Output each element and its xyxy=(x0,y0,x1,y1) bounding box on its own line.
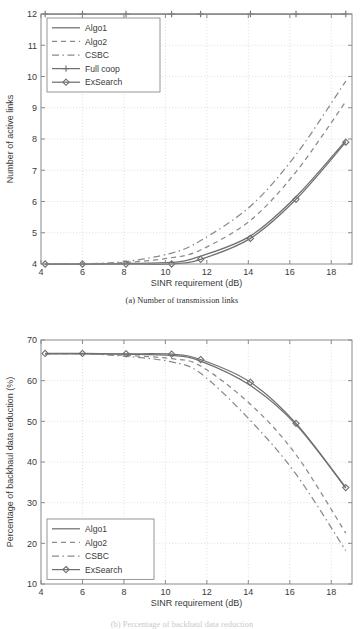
x-tick-label: 4 xyxy=(38,267,43,277)
y-tick-label: 12 xyxy=(27,9,37,19)
legend-label: Algo1 xyxy=(85,23,107,33)
x-tick-label: 16 xyxy=(285,267,295,277)
y-tick-label: 7 xyxy=(32,166,37,176)
chart-b-canvas: 468101214161810203040506070SINR requirem… xyxy=(0,322,364,620)
x-tick-label: 12 xyxy=(202,587,212,597)
y-tick-label: 6 xyxy=(32,197,37,207)
legend-label: CSBC xyxy=(85,50,109,60)
x-tick-label: 8 xyxy=(121,587,126,597)
y-tick-label: 4 xyxy=(32,259,37,269)
series-exsearch xyxy=(42,350,349,490)
x-tick-label: 10 xyxy=(160,587,170,597)
y-tick-label: 20 xyxy=(27,539,37,549)
x-tick-label: 6 xyxy=(80,267,85,277)
x-tick-label: 6 xyxy=(80,587,85,597)
x-tick-label: 14 xyxy=(243,267,253,277)
x-tick-label: 12 xyxy=(202,267,212,277)
y-tick-label: 30 xyxy=(27,498,37,508)
x-tick-label: 18 xyxy=(326,267,336,277)
series-algo2 xyxy=(45,102,346,265)
legend-label: ExSearch xyxy=(85,565,122,575)
legend-label: Full coop xyxy=(85,64,120,74)
y-tick-label: 60 xyxy=(27,376,37,386)
x-tick-label: 10 xyxy=(160,267,170,277)
y-tick-label: 70 xyxy=(27,335,37,345)
legend[interactable]: Algo1Algo2CSBCFull coopExSearch xyxy=(47,18,160,92)
x-tick-label: 8 xyxy=(121,267,126,277)
x-tick-label: 14 xyxy=(243,587,253,597)
legend-label: Algo2 xyxy=(85,538,107,548)
legend-label: Algo1 xyxy=(85,524,107,534)
y-tick-label: 11 xyxy=(28,41,37,51)
legend-label: CSBC xyxy=(85,551,109,561)
figure-a: 4681012141618456789101112SINR requiremen… xyxy=(0,0,364,300)
x-tick-label: 4 xyxy=(38,587,43,597)
y-tick-label: 5 xyxy=(32,228,37,238)
legend-label: Algo2 xyxy=(85,37,107,47)
y-tick-label: 8 xyxy=(32,134,37,144)
x-tick-label: 18 xyxy=(326,587,336,597)
x-axis-title: SINR requirement (dB) xyxy=(151,278,243,288)
series-csbc xyxy=(45,81,346,264)
figure-b: 468101214161810203040506070SINR requirem… xyxy=(0,322,364,622)
y-tick-label: 40 xyxy=(27,457,37,467)
legend[interactable]: Algo1Algo2CSBCExSearch xyxy=(47,519,154,579)
y-axis-title: Percentage of backhaul data reduction (%… xyxy=(5,377,15,548)
series-algo1 xyxy=(45,141,346,264)
x-tick-label: 16 xyxy=(285,587,295,597)
series-exsearch xyxy=(42,139,349,267)
legend-label: ExSearch xyxy=(85,77,122,87)
y-axis-title: Number of active links xyxy=(5,94,15,183)
series-algo1 xyxy=(45,354,346,488)
y-tick-label: 10 xyxy=(27,72,37,82)
y-tick-label: 9 xyxy=(32,103,37,113)
figure-a-caption: (a) Number of transmission links xyxy=(0,296,364,305)
chart-a-canvas: 4681012141618456789101112SINR requiremen… xyxy=(0,0,364,296)
y-tick-label: 10 xyxy=(27,579,37,589)
y-tick-label: 50 xyxy=(27,417,37,427)
x-axis-title: SINR requirement (dB) xyxy=(151,598,243,608)
figure-b-caption: (b) Percentage of backhaul data reductio… xyxy=(0,620,364,629)
